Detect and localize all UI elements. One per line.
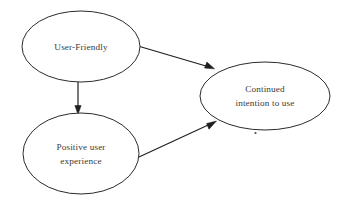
arrowhead-icon: [207, 121, 217, 129]
node-user-friendly[interactable]: User-Friendly: [22, 11, 140, 82]
node-continued-intention-to-use[interactable]: Continued intention to use: [200, 62, 330, 130]
edge-userfriendly-to-positive: [75, 82, 81, 114]
diagram-canvas: User-Friendly Positive user experience C…: [0, 0, 343, 205]
diagram-figure: User-Friendly Positive user experience C…: [0, 0, 343, 205]
node-label-continued-intention-line2: intention to use: [235, 98, 294, 108]
edge-line: [139, 123, 213, 157]
node-shape-ellipse[interactable]: [23, 113, 139, 194]
node-label-user-friendly: User-Friendly: [54, 42, 108, 52]
node-label-positive-user-experience-line1: Positive user: [56, 142, 105, 152]
edge-positive-to-continued: [139, 121, 216, 157]
edge-userfriendly-to-continued: [138, 46, 215, 69]
node-shape-ellipse[interactable]: [200, 62, 330, 130]
node-label-continued-intention-line1: Continued: [245, 84, 285, 94]
stray-dot-mark: [254, 132, 256, 134]
node-positive-user-experience[interactable]: Positive user experience: [23, 113, 139, 194]
arrowhead-icon: [205, 62, 215, 69]
edge-line: [138, 46, 211, 68]
node-label-positive-user-experience-line2: experience: [60, 156, 101, 166]
